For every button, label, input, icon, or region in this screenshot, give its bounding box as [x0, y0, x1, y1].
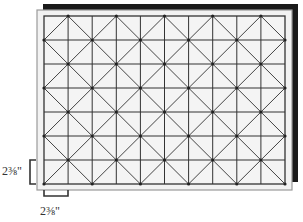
grid-drawing	[0, 0, 303, 222]
quilt-diagram: 2⅜" 2⅜"	[0, 0, 303, 222]
horizontal-dimension-label: 2⅜"	[40, 204, 60, 219]
horizontal-dimension-bracket	[44, 190, 68, 196]
vertical-dimension-bracket	[30, 160, 36, 184]
vertical-dimension-label: 2⅜"	[2, 164, 22, 179]
